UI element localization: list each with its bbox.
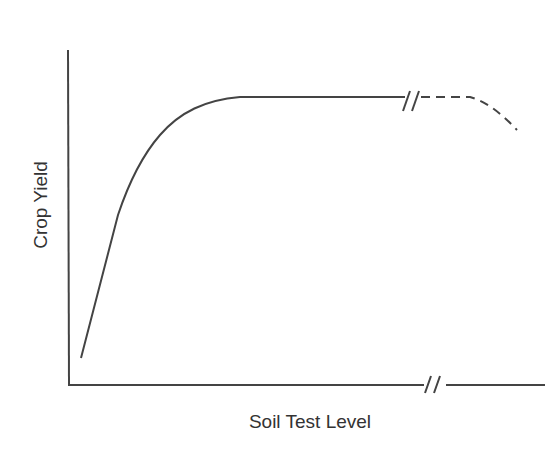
yield-curve-dashed: [421, 97, 517, 130]
y-axis-label: Crop Yield: [30, 161, 51, 249]
x-axis-label: Soil Test Level: [249, 411, 371, 432]
chart: Soil Test Level Crop Yield: [0, 0, 559, 460]
x-axis-break-icon: [425, 376, 440, 393]
curve-break-icon: [403, 91, 419, 111]
y-axis: [68, 50, 69, 385]
yield-curve-solid: [81, 97, 405, 358]
